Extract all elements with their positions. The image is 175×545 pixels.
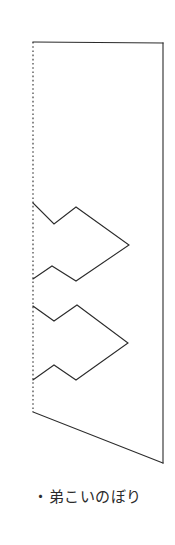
carp-lower — [33, 305, 128, 380]
koinobori-figure: ・弟こいのぼり — [0, 0, 175, 545]
pattern-drawing — [0, 0, 175, 545]
top-edge — [33, 42, 163, 43]
carp-upper — [33, 203, 129, 281]
bottom-diagonal-edge — [33, 412, 163, 463]
figure-caption: ・弟こいのぼり — [0, 487, 175, 507]
